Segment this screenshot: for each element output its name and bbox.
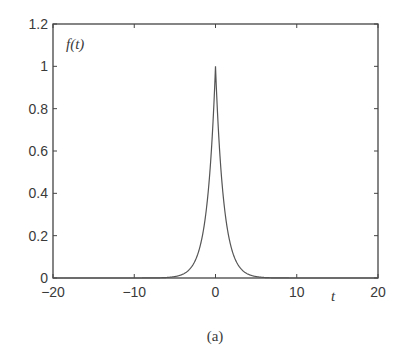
x-tick-label: 20 [370, 284, 386, 300]
x-tick-label: 10 [289, 284, 305, 300]
y-tick-label: 0.6 [29, 143, 49, 159]
y-tick-label: 0.2 [29, 228, 49, 244]
figure-caption: (a) [207, 328, 224, 345]
x-axis-label: t [331, 288, 336, 304]
y-tick-label: 1.2 [29, 16, 49, 32]
x-tick-label: 0 [212, 284, 220, 300]
x-tick-label: −20 [41, 284, 65, 300]
y-tick-label: 0.8 [29, 101, 49, 117]
chart-figure: −20−100102000.20.40.60.811.2f(t)t(a) [0, 0, 405, 355]
y-axis-label: f(t) [66, 36, 84, 53]
axes-frame [53, 24, 378, 278]
y-tick-label: 0.4 [29, 185, 49, 201]
data-curve [53, 66, 378, 278]
x-tick-label: −10 [122, 284, 146, 300]
y-tick-label: 1 [40, 58, 48, 74]
y-tick-label: 0 [40, 270, 48, 286]
plot-area: −20−100102000.20.40.60.811.2f(t)t(a) [29, 16, 386, 345]
